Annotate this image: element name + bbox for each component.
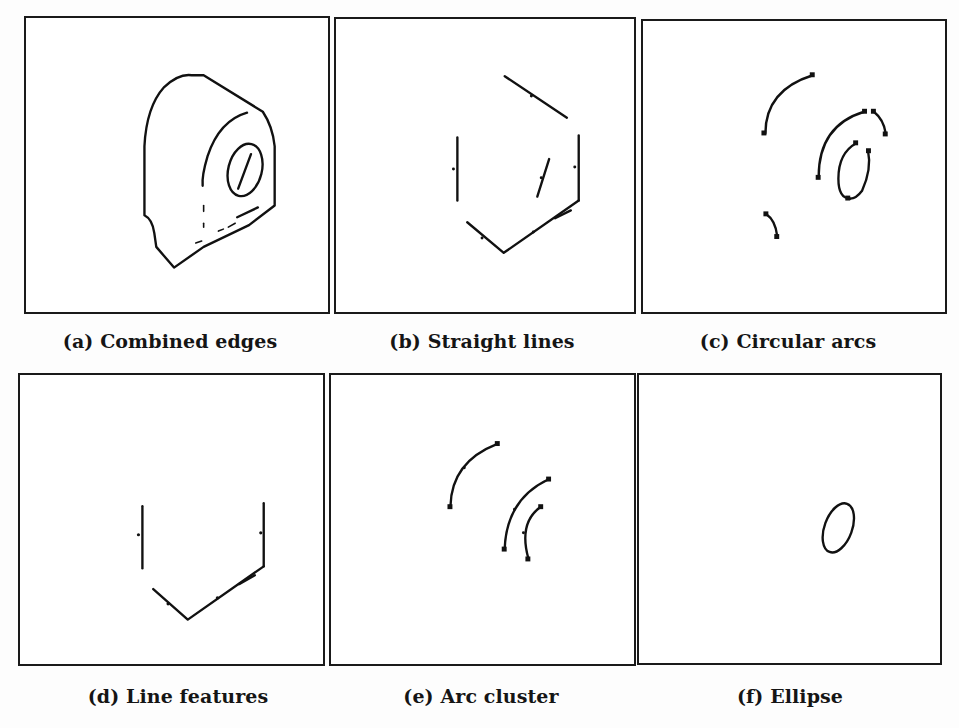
- panel-line-features: [18, 373, 325, 666]
- circular-arcs-drawing: [643, 21, 945, 312]
- caption-a: (a) Combined edges: [63, 330, 277, 352]
- panel-label-f: (f): [737, 685, 763, 707]
- panel-label-c: (c): [700, 330, 730, 352]
- straight-lines-drawing: [336, 19, 634, 312]
- caption-e: (e) Arc cluster: [403, 685, 558, 707]
- panel-straight-lines: [334, 17, 636, 314]
- caption-f: (f) Ellipse: [737, 685, 843, 707]
- caption-c: (c) Circular arcs: [700, 330, 876, 352]
- panel-caption-d: Line features: [126, 685, 268, 707]
- panel-ellipse: [637, 373, 942, 665]
- caption-b: (b) Straight lines: [389, 330, 574, 352]
- panel-arc-cluster: [329, 373, 636, 666]
- panel-caption-b: Straight lines: [428, 330, 575, 352]
- panel-caption-a: Combined edges: [100, 330, 277, 352]
- panel-caption-e: Arc cluster: [440, 685, 558, 707]
- caption-d: (d) Line features: [88, 685, 269, 707]
- arc-cluster-drawing: [331, 375, 634, 664]
- panel-circular-arcs: [641, 19, 947, 314]
- ellipse-drawing: [639, 375, 940, 663]
- panel-label-d: (d): [88, 685, 120, 707]
- panel-label-b: (b): [389, 330, 421, 352]
- combined-edges-drawing: [26, 18, 328, 312]
- line-features-drawing: [20, 375, 323, 664]
- panel-caption-c: Circular arcs: [736, 330, 876, 352]
- panel-caption-f: Ellipse: [770, 685, 843, 707]
- panel-label-e: (e): [403, 685, 433, 707]
- panel-label-a: (a): [63, 330, 94, 352]
- panel-combined-edges: [24, 16, 330, 314]
